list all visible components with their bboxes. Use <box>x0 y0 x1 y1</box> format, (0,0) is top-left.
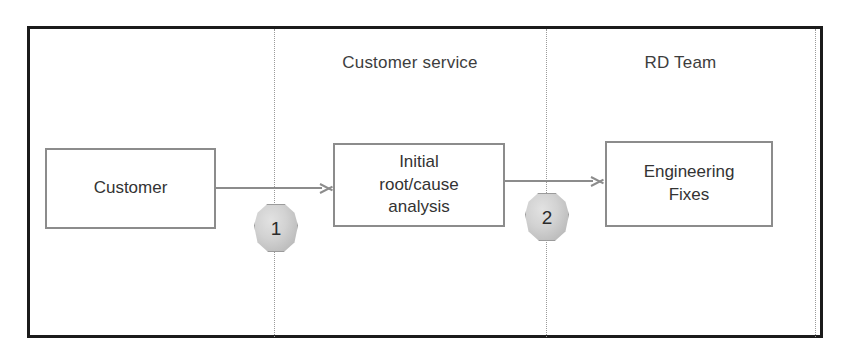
node-engineering-fixes-label: Engineering Fixes <box>644 161 735 207</box>
lane-divider-1 <box>274 29 275 337</box>
node-engineering-fixes[interactable]: Engineering Fixes <box>605 141 773 227</box>
step-badge-1[interactable]: 1 <box>254 204 298 252</box>
swimlane-diagram: Customer service RD Team Customer Initia… <box>0 0 848 357</box>
node-customer[interactable]: Customer <box>45 148 216 229</box>
node-initial-root-cause-analysis-label: Initial root/cause analysis <box>379 151 458 220</box>
step-badge-2[interactable]: 2 <box>525 193 569 241</box>
step-badge-2-number: 2 <box>542 208 553 227</box>
lane-divider-2 <box>546 29 547 337</box>
node-initial-root-cause-analysis[interactable]: Initial root/cause analysis <box>333 143 505 227</box>
lane-divider-3 <box>815 29 816 337</box>
lane-label-rd-team: RD Team <box>546 53 815 73</box>
node-customer-label: Customer <box>94 177 168 200</box>
step-badge-1-number: 1 <box>271 219 282 238</box>
lane-label-customer-service: Customer service <box>274 53 546 73</box>
